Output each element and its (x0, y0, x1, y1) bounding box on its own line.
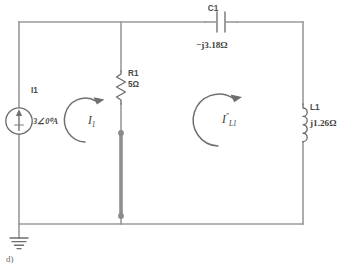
current-source-symbol[interactable] (6, 108, 32, 134)
mesh-current-right-label: I″L1 (221, 112, 237, 128)
node-dot-upper (118, 130, 124, 136)
resistor-ref-label: R1 (128, 69, 139, 78)
mesh-current-left-arrow (64, 97, 104, 142)
mesh-right-subscript: L1 (228, 119, 237, 128)
circuit-diagram: I1 3∠0⁰A R1 5Ω C1 −j3.18Ω L1 j1.26Ω I1 (0, 0, 345, 267)
resistor-symbol[interactable] (117, 71, 126, 104)
node-dot-lower (118, 213, 124, 219)
figure-caption: d) (6, 254, 14, 264)
ground-symbol (10, 224, 28, 249)
inductor-ref-label: L1 (310, 103, 320, 112)
inductor-symbol[interactable] (303, 104, 307, 142)
mesh-current-left-label: I1 (87, 114, 96, 129)
resistor-value-label: 5Ω (128, 80, 140, 89)
capacitor-value-label: −j3.18Ω (196, 40, 228, 50)
capacitor-ref-label: C1 (208, 4, 219, 13)
source-ref-label: I1 (31, 86, 38, 95)
capacitor-symbol[interactable] (205, 12, 237, 32)
mesh-left-subscript: 1 (92, 120, 96, 129)
source-value-label: 3∠0⁰A (32, 117, 58, 126)
inductor-value-label: j1.26Ω (309, 118, 337, 128)
